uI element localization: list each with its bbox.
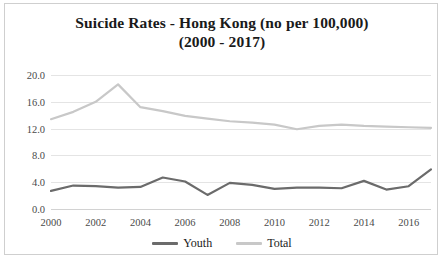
x-tick-2000: 2000 — [41, 217, 62, 228]
x-tick-2012: 2012 — [309, 217, 330, 228]
x-tick-2016: 2016 — [398, 217, 419, 228]
y-tick-12.0: 12.0 — [27, 123, 45, 134]
page-caption-cutoff — [11, 267, 431, 273]
x-tick-2004: 2004 — [130, 217, 151, 228]
y-tick-0.0: 0.0 — [32, 204, 45, 215]
x-tick-2002: 2002 — [85, 217, 106, 228]
x-tick-2010: 2010 — [264, 217, 285, 228]
chart-container: Suicide Rates - Hong Kong (no per 100,00… — [4, 3, 438, 255]
y-tick-8.0: 8.0 — [32, 150, 45, 161]
chart-title: Suicide Rates - Hong Kong (no per 100,00… — [5, 13, 439, 51]
series-lines — [51, 75, 431, 209]
series-line-youth — [51, 169, 431, 194]
legend-label-youth: Youth — [183, 236, 212, 251]
legend-label-total: Total — [267, 236, 292, 251]
x-tick-2014: 2014 — [353, 217, 374, 228]
legend-entry-youth[interactable]: Youth — [152, 236, 212, 251]
chart-title-line-1: Suicide Rates - Hong Kong (no per 100,00… — [75, 14, 368, 31]
chart-title-line-2: (2000 - 2017) — [5, 32, 439, 51]
x-tick-2006: 2006 — [175, 217, 196, 228]
y-tick-4.0: 4.0 — [32, 177, 45, 188]
gridline-0.0 — [51, 209, 431, 210]
y-tick-16.0: 16.0 — [27, 96, 45, 107]
series-line-total — [51, 84, 431, 129]
legend-swatch-youth — [152, 242, 178, 245]
y-tick-20.0: 20.0 — [27, 70, 45, 81]
chart-legend: YouthTotal — [5, 236, 439, 251]
x-tick-2008: 2008 — [219, 217, 240, 228]
legend-swatch-total — [236, 242, 262, 245]
plot-area: 0.04.08.012.016.020.0 200020022004200620… — [51, 75, 431, 209]
legend-entry-total[interactable]: Total — [236, 236, 292, 251]
